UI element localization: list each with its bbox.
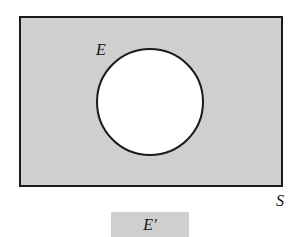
legend-complement-swatch: E′ bbox=[111, 212, 189, 237]
set-e-label: E bbox=[96, 42, 106, 58]
venn-diagram bbox=[0, 0, 299, 237]
set-e-circle bbox=[97, 49, 203, 155]
legend-complement-label: E′ bbox=[143, 216, 156, 234]
universe-s-label: S bbox=[276, 193, 284, 209]
